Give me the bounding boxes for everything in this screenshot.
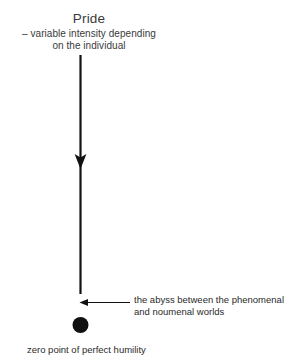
abyss-pointer-arrow	[80, 299, 89, 306]
abyss-line-1: the abyss between the phenomenal	[134, 294, 294, 306]
zero-point-caption: zero point of perfect humility	[27, 344, 146, 356]
zero-point-dot	[73, 317, 89, 333]
pride-humility-diagram: Pride – variable intensity depending on …	[0, 0, 295, 364]
abyss-line-2: and noumenal worlds	[134, 306, 294, 318]
abyss-annotation: the abyss between the phenomenal and nou…	[134, 294, 294, 317]
